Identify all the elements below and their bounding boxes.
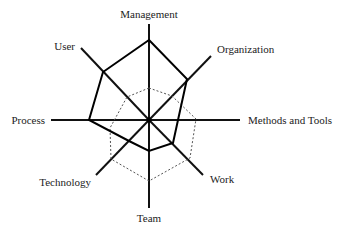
label-user: User <box>54 40 75 52</box>
series-dotted <box>110 88 196 181</box>
label-methods-and-tools: Methods and Tools <box>248 114 332 126</box>
label-process: Process <box>11 114 45 126</box>
radar-chart: Management Organization Methods and Tool… <box>0 0 338 228</box>
label-organization: Organization <box>217 43 275 55</box>
center-point <box>147 118 152 123</box>
label-team: Team <box>137 212 162 224</box>
label-technology: Technology <box>39 176 91 188</box>
label-management: Management <box>120 8 177 20</box>
label-work: Work <box>210 173 235 185</box>
